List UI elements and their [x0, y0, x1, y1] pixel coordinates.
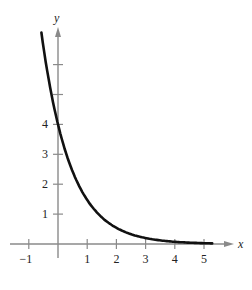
chart: −1123451234 x y	[0, 0, 252, 290]
y-tick-label: 3	[42, 147, 48, 161]
axes	[10, 27, 234, 258]
y-axis-arrow-icon	[55, 27, 61, 37]
exponential-curve	[41, 33, 212, 244]
ticks	[29, 65, 204, 249]
x-axis-label: x	[237, 237, 244, 251]
x-tick-label: 2	[113, 252, 119, 266]
x-axis-arrow-icon	[224, 241, 234, 247]
y-axis-label: y	[53, 11, 60, 25]
x-tick-label: 1	[84, 252, 90, 266]
x-tick-label: 4	[172, 252, 178, 266]
x-tick-label: 3	[143, 252, 149, 266]
y-tick-label: 1	[42, 207, 48, 221]
x-tick-label: −1	[19, 252, 32, 266]
x-tick-label: 5	[201, 252, 207, 266]
y-tick-label: 4	[42, 117, 48, 131]
y-tick-label: 2	[42, 177, 48, 191]
